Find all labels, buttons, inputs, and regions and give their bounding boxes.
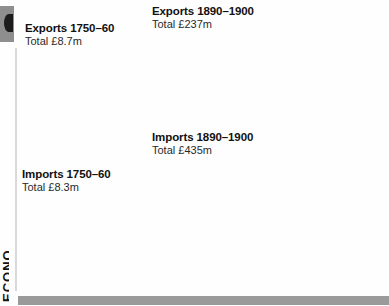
page-title-imports-1890: Imports 1890–1900 bbox=[152, 131, 253, 143]
edge-tab-glyph-icon bbox=[4, 14, 13, 32]
vertical-edge-label-text: ECONO bbox=[0, 249, 9, 302]
chart-title-exports-1890: Exports 1890–1900 Total £237m bbox=[152, 5, 254, 30]
vertical-edge-label: ECONO bbox=[0, 236, 9, 302]
chart-title-imports-1750: Imports 1750–60 Total £8.3m bbox=[22, 168, 111, 193]
chart-subtitle-imports-1890: Total £435m bbox=[152, 144, 253, 156]
chart-title-imports-1890: Imports 1890–1900 Total £435m bbox=[152, 131, 253, 156]
chart-title-exports-1750: Exports 1750–60 Total £8.7m bbox=[25, 22, 114, 47]
page-title-exports-1750: Exports 1750–60 bbox=[25, 22, 114, 34]
page-title-exports-1890: Exports 1890–1900 bbox=[152, 5, 254, 17]
page-edge-rule bbox=[15, 48, 17, 291]
chart-subtitle-exports-1750: Total £8.7m bbox=[25, 35, 114, 47]
chart-subtitle-exports-1890: Total £237m bbox=[152, 18, 254, 30]
chart-subtitle-imports-1750: Total £8.3m bbox=[22, 181, 111, 193]
page-edge-tab bbox=[0, 6, 14, 42]
infographic-page: ECONO Exports 1750–60 Total £8.7m Import… bbox=[0, 0, 389, 306]
page-title-imports-1750: Imports 1750–60 bbox=[22, 168, 111, 180]
footer-bar bbox=[18, 296, 389, 305]
